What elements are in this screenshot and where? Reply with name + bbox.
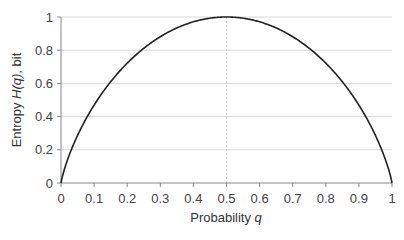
x-tick-label: 0.1 <box>85 191 103 206</box>
x-tick-label: 0.7 <box>284 191 302 206</box>
y-tick-label: 0.6 <box>35 76 53 91</box>
x-tick-label: 0.2 <box>118 191 136 206</box>
x-tick-label: 1 <box>388 191 395 206</box>
x-tick-label: 0.6 <box>251 191 269 206</box>
x-tick-label: 0.8 <box>317 191 335 206</box>
y-tick-label: 0 <box>46 176 53 191</box>
x-tick-label: 0 <box>57 191 64 206</box>
y-tick-label: 1 <box>46 10 53 25</box>
x-axis-label: Probability q <box>190 210 262 225</box>
y-tick-labels: 00.20.40.60.81 <box>35 10 53 191</box>
grid-lines <box>57 17 392 187</box>
y-tick-label: 0.2 <box>35 142 53 157</box>
x-tick-label: 0.3 <box>151 191 169 206</box>
y-tick-label: 0.8 <box>35 43 53 58</box>
x-tick-label: 0.5 <box>217 191 235 206</box>
x-tick-label: 0.4 <box>184 191 202 206</box>
entropy-chart: 00.20.40.60.81 00.10.20.30.40.50.60.70.8… <box>0 0 404 240</box>
y-axis-label: Entropy H(q), bit <box>9 52 24 147</box>
x-tick-labels: 00.10.20.30.40.50.60.70.80.91 <box>57 191 395 206</box>
x-tick-label: 0.9 <box>350 191 368 206</box>
y-tick-label: 0.4 <box>35 109 53 124</box>
